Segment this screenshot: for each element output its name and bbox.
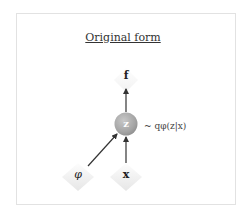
node-f-label: f (120, 70, 132, 82)
node-x-label: x (120, 169, 132, 181)
graph-canvas (0, 0, 246, 224)
edge-phi-to-z (88, 134, 117, 166)
node-phi-label: φ (72, 169, 84, 181)
z-distribution-annotation: ~ qφ(z|x) (144, 121, 186, 131)
node-z-label: z (120, 118, 132, 130)
